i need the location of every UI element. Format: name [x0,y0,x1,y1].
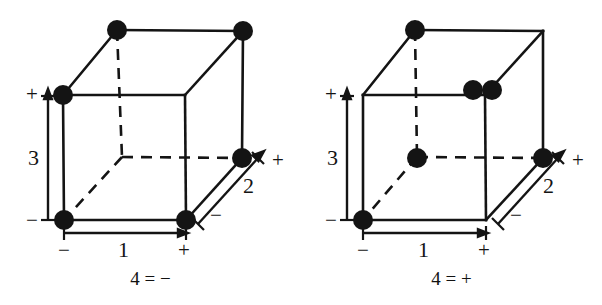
figure-root: + − 3 − + 1 − + 2 4 = − [0,0,602,305]
axis-3-name-label: 3 [327,147,338,169]
axis-3-plus-label: + [325,84,337,105]
edge-back-bottom-hidden [417,157,543,158]
cube-panel-right: + − 3 − + 1 − + 2 4 = + [301,0,602,305]
edge-front-left [63,95,64,220]
axis-2-plus-label: + [572,150,584,171]
axis-3-minus-label: − [325,210,337,231]
edge-front-right [485,95,486,220]
cube-diagram-left [0,0,301,305]
axis-3-minus-label: − [26,210,38,231]
axis-2-minus-label: − [510,205,522,226]
edge-back-top [415,30,543,31]
axis-3-arrowhead [343,89,351,99]
axis-2-name-label: 2 [543,175,554,197]
cube-panel-left: + − 3 − + 1 − + 2 4 = − [0,0,301,305]
axis-2-name-label: 2 [243,175,254,197]
edge-back-top [117,30,243,31]
axis-3-name-label: 3 [28,147,39,169]
design-point [533,148,553,168]
design-point [107,20,127,40]
axis-3-arrowhead [44,89,52,99]
axis-1-name-label: 1 [118,239,129,261]
edge-connect-top-left [363,30,415,95]
design-point [232,148,252,168]
edge-back-bottom-hidden [122,157,242,158]
design-point [233,21,253,41]
design-point [176,210,196,230]
panel-caption-left: 4 = − [0,268,301,290]
design-point [482,80,502,100]
edge-back-left-hidden [415,30,417,157]
design-point [353,210,373,230]
design-point [54,210,74,230]
axis-1-plus-label: + [478,240,490,261]
edge-connect-top-right [185,31,243,95]
axis-1-plus-label: + [178,240,190,261]
edge-connect-bottom-left-hidden [64,157,122,220]
edge-back-right [242,31,243,158]
panel-caption-right: 4 = + [301,268,602,290]
axis-1-minus-label: − [357,240,369,261]
axis-1-minus-label: − [58,240,70,261]
axis-2-plus-label: + [272,150,284,171]
axis-1-name-label: 1 [418,239,429,261]
edge-connect-top-left [63,30,117,95]
axis-2-minus-label: − [210,205,222,226]
edge-connect-bottom-left-hidden [363,157,417,220]
cube-diagram-right [301,0,602,305]
axis-3-plus-label: + [26,84,38,105]
design-point [463,80,483,100]
design-point [53,85,73,105]
edge-back-left-hidden [117,30,122,157]
design-point [405,20,425,40]
design-point [407,148,427,168]
